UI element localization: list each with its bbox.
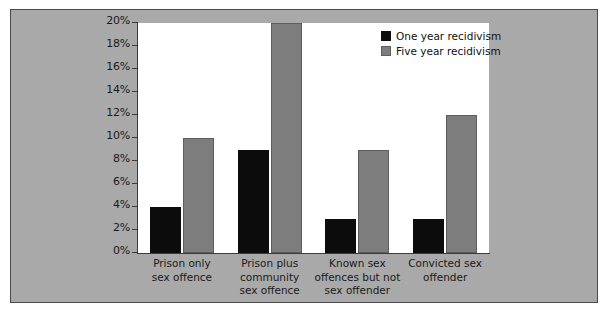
bar [446, 115, 477, 253]
bar [183, 138, 214, 253]
y-axis-tick-label: 14% [106, 83, 130, 96]
chart-panel: 0%2%4%6%8%10%12%14%16%18%20% One year re… [10, 9, 598, 303]
y-axis-tick-mark [132, 160, 137, 161]
y-axis-tick-label: 8% [113, 152, 130, 165]
y-axis-tick-label: 0% [113, 244, 130, 257]
x-axis-group-label: Convicted sex offender [401, 257, 489, 284]
legend-item: One year recidivism [381, 29, 501, 43]
x-axis-group-label: Known sex offences but not sex offender [314, 257, 402, 298]
x-axis-group-label: Prison plus community sex offence [226, 257, 314, 298]
y-axis-tick-mark [132, 252, 137, 253]
y-axis-tick-mark [132, 22, 137, 23]
bar [238, 150, 269, 254]
y-axis-tick-label: 16% [106, 60, 130, 73]
y-axis-tick-mark [132, 114, 137, 115]
legend-label: Five year recidivism [396, 45, 501, 57]
y-axis-tick-mark [132, 229, 137, 230]
y-axis-tick-label: 12% [106, 106, 130, 119]
y-axis-tick-label: 4% [113, 198, 130, 211]
chart-screenshot: 0%2%4%6%8%10%12%14%16%18%20% One year re… [0, 0, 609, 314]
y-axis-tick-mark [132, 45, 137, 46]
y-axis-tick-label: 10% [106, 129, 130, 142]
y-axis-tick-label: 20% [106, 14, 130, 27]
legend-swatch-icon [381, 31, 391, 41]
x-axis-group-label: Prison only sex offence [138, 257, 226, 284]
y-axis-tick-label: 6% [113, 175, 130, 188]
bar [358, 150, 389, 254]
chart-legend: One year recidivismFive year recidivism [381, 29, 501, 58]
y-axis: 0%2%4%6%8%10%12%14%16%18%20% [11, 22, 137, 254]
bar [325, 219, 356, 254]
bar [271, 23, 302, 253]
y-axis-tick-mark [132, 183, 137, 184]
legend-item: Five year recidivism [381, 44, 501, 58]
y-axis-tick-mark [132, 206, 137, 207]
x-axis-labels: Prison only sex offencePrison plus commu… [138, 257, 489, 303]
y-axis-tick-label: 18% [106, 37, 130, 50]
bar [413, 219, 444, 254]
y-axis-tick-label: 2% [113, 221, 130, 234]
y-axis-tick-mark [132, 68, 137, 69]
legend-swatch-icon [381, 46, 391, 56]
legend-label: One year recidivism [396, 30, 501, 42]
y-axis-tick-mark [132, 137, 137, 138]
y-axis-tick-mark [132, 91, 137, 92]
x-axis-line [137, 253, 490, 254]
plot-area: One year recidivismFive year recidivism [138, 23, 489, 253]
bar [150, 207, 181, 253]
